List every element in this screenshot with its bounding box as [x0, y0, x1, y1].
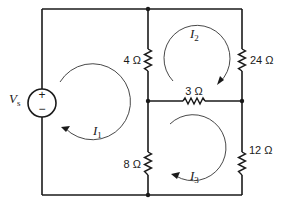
wires: [42, 9, 242, 195]
label-4-ohm: 4 Ω: [124, 54, 141, 66]
label-3-ohm: 3 Ω: [185, 85, 202, 97]
voltage-source: + −: [28, 88, 56, 117]
resistor-8-ohm: [145, 152, 152, 175]
node-top-middle: [146, 7, 150, 11]
resistor-24-ohm: [239, 49, 246, 71]
label-8-ohm: 8 Ω: [124, 158, 141, 170]
mesh-current-i3-label: I3: [189, 168, 199, 185]
label-24-ohm: 24 Ω: [250, 54, 274, 66]
resistor-12-ohm: [239, 152, 246, 175]
label-12-ohm: 12 Ω: [249, 144, 273, 156]
resistor-4-ohm: [145, 49, 152, 71]
mesh-current-i1-label: I1: [92, 123, 102, 140]
minus-sign: −: [38, 102, 45, 116]
mesh-loop-i3: [170, 115, 226, 181]
circuit-diagram: + − Vs 4 Ω 8 Ω 24 Ω 12 Ω 3 Ω I1 I2 I3: [0, 0, 287, 213]
node-bottom-middle: [146, 193, 150, 197]
node-mid-right: [240, 99, 244, 103]
arrow-i2-icon: [217, 76, 224, 85]
voltage-source-label: Vs: [9, 91, 21, 108]
plus-sign: +: [38, 88, 45, 102]
mesh-current-i2-label: I2: [189, 26, 199, 43]
arrow-i3-icon: [171, 172, 180, 179]
node-mid-left: [146, 99, 150, 103]
resistor-3-ohm: [183, 98, 205, 104]
